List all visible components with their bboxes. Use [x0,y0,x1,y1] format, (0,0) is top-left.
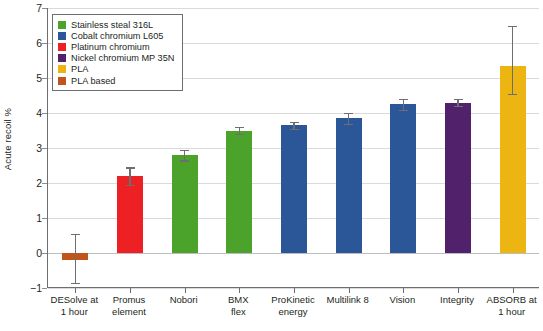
y-axis-tick-label: 5 [16,72,42,84]
y-axis-tick-mark [42,8,47,9]
y-axis-tick-label: −1 [16,282,42,294]
y-axis-tick-mark [42,218,47,219]
error-bar-line [184,150,185,161]
y-axis-tick-mark [42,148,47,149]
y-axis-tick-label: 3 [16,142,42,154]
legend-swatch-icon [58,21,66,29]
y-axis-tick-mark [42,43,47,44]
x-axis-tick-mark [513,288,514,293]
error-bar-cap-lower [344,124,353,125]
y-axis-tick-mark [42,78,47,79]
bar [445,103,471,254]
bar [336,118,362,253]
error-bar-cap-lower [126,185,135,186]
error-bar-cap-upper [399,99,408,100]
error-bar-line [403,99,404,110]
x-axis-tick-label: ABSORB at1 hour [475,294,543,317]
error-bar-cap-upper [71,234,80,235]
y-axis-tick-label: 7 [16,2,42,14]
zero-line [48,253,539,254]
error-bar-cap-upper [344,113,353,114]
bar [117,176,143,253]
error-bar-cap-lower [508,94,517,95]
legend-item: Platinum chromium [58,41,174,52]
error-bar-cap-upper [290,122,299,123]
error-bar-line [512,26,513,94]
error-bar-cap-upper [508,26,517,27]
x-axis-tick-label-line: element [92,306,166,318]
error-bar-cap-upper [454,99,463,100]
legend-item: Nickel chromium MP 35N [58,53,174,64]
bar [172,155,198,253]
error-bar-line [348,113,349,124]
legend-item-label: PLA based [71,76,115,86]
x-axis-tick-mark [239,288,240,293]
error-bar-cap-lower [399,110,408,111]
x-axis-tick-mark [403,288,404,293]
bar [226,131,252,254]
y-axis-tick-mark [42,183,47,184]
error-bar-cap-lower [71,283,80,284]
x-axis-tick-label-line: energy [256,306,330,318]
legend-item-label: PLA [71,64,88,74]
error-bar-cap-lower [454,106,463,107]
legend-item: PLA based [58,75,174,86]
legend-item-label: Stainless steal 316L [71,20,153,30]
y-axis-tick-label: 2 [16,177,42,189]
error-bar-cap-upper [235,127,244,128]
y-axis-tick-label: 1 [16,212,42,224]
error-bar-cap-upper [180,150,189,151]
error-bar-cap-lower [290,129,299,130]
error-bar-cap-lower [235,134,244,135]
x-axis-tick-mark [349,288,350,293]
legend-swatch-icon [58,65,66,73]
legend-item-label: Nickel chromium MP 35N [71,53,174,63]
bar [390,104,416,253]
x-axis-tick-mark [75,288,76,293]
legend-item: PLA [58,64,174,75]
legend-swatch-icon [58,54,66,62]
y-axis-tick-mark [42,288,47,289]
error-bar-line [75,234,76,283]
legend-item-label: Platinum chromium [71,42,150,52]
legend-item: Stainless steal 316L [58,19,174,30]
y-axis-tick-mark [42,113,47,114]
legend: Stainless steal 316LCobalt chromium L605… [52,14,183,91]
bar [281,125,307,253]
x-axis-tick-mark [294,288,295,293]
error-bar-cap-upper [126,167,135,168]
x-axis-tick-mark [185,288,186,293]
y-axis-tick-labels: −101234567 [14,0,42,331]
x-axis-tick-label-line: 1 hour [475,306,543,318]
error-bar-line [129,167,130,185]
legend-swatch-icon [58,43,66,51]
acute-recoil-bar-chart: Acute recoil % −101234567 DESolve at1 ho… [0,0,543,331]
x-axis-tick-mark [458,288,459,293]
legend-item-label: Cobalt chromium L605 [71,31,163,41]
y-axis-tick-mark [42,253,47,254]
x-axis-tick-mark [130,288,131,293]
error-bar-cap-lower [180,160,189,161]
gridline [48,8,539,9]
y-axis-tick-label: 4 [16,107,42,119]
x-axis-tick-label-line: ABSORB at [475,294,543,306]
legend-swatch-icon [58,77,66,85]
legend-item: Cobalt chromium L605 [58,30,174,41]
y-axis-tick-label: 6 [16,37,42,49]
legend-swatch-icon [58,32,66,40]
y-axis-tick-label: 0 [16,247,42,259]
